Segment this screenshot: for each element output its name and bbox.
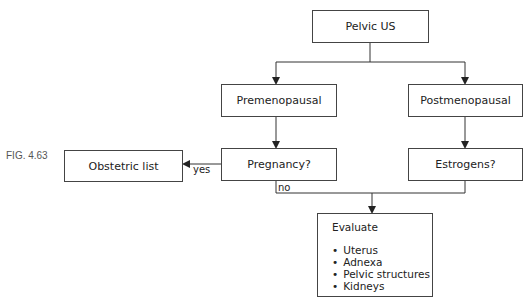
node-label: Postmenopausal bbox=[420, 94, 510, 107]
node-label: Pelvic US bbox=[345, 20, 395, 33]
evaluate-title: Evaluate bbox=[332, 221, 432, 233]
node-label: Estrogens? bbox=[435, 158, 495, 171]
evaluate-item: Kidneys bbox=[332, 280, 432, 292]
node-label: Premenopausal bbox=[237, 94, 322, 107]
node-obstetric-list: Obstetric list bbox=[64, 150, 183, 182]
evaluate-list: Uterus Adnexa Pelvic structures Kidneys bbox=[332, 244, 432, 292]
node-evaluate: Evaluate Uterus Adnexa Pelvic structures… bbox=[317, 213, 433, 297]
edge-label-yes: yes bbox=[193, 164, 210, 175]
node-pelvic-us: Pelvic US bbox=[312, 10, 429, 43]
edge-label-no: no bbox=[278, 182, 290, 193]
node-label: Obstetric list bbox=[88, 160, 158, 173]
node-label: Pregnancy? bbox=[247, 158, 311, 171]
evaluate-item: Pelvic structures bbox=[332, 268, 432, 280]
node-estrogens: Estrogens? bbox=[408, 148, 523, 181]
figure-label: FIG. 4.63 bbox=[6, 150, 48, 161]
evaluate-item: Adnexa bbox=[332, 256, 432, 268]
node-pregnancy: Pregnancy? bbox=[221, 148, 337, 181]
node-postmenopausal: Postmenopausal bbox=[408, 84, 523, 117]
node-premenopausal: Premenopausal bbox=[221, 84, 337, 117]
evaluate-item: Uterus bbox=[332, 244, 432, 256]
